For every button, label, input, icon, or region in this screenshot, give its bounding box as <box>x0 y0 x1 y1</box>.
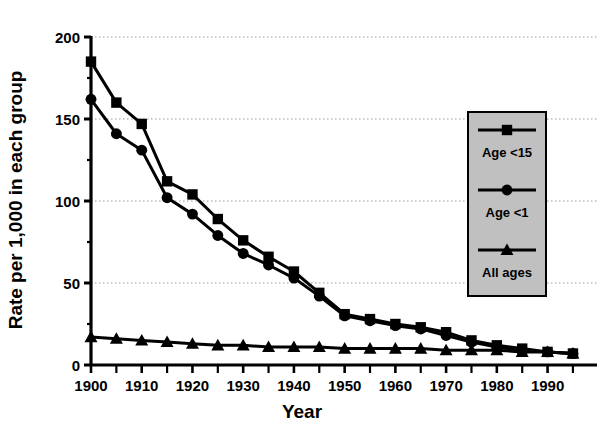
x-tick-label-1980: 1980 <box>480 377 513 394</box>
series-point-circle-1970 <box>441 330 452 341</box>
series-point-square-1910 <box>137 119 147 129</box>
series-point-circle-1945 <box>314 291 325 302</box>
y-tick-label-0: 0 <box>72 357 80 374</box>
y-axis-title: Rate per 1,000 in each group <box>5 71 26 330</box>
legend-label-age-1: Age <1 <box>486 205 529 220</box>
series-point-circle-1905 <box>111 128 122 139</box>
chart-container: 0501001502001900191019201930194019501960… <box>0 0 603 431</box>
series-point-square-1900 <box>86 56 96 66</box>
series-point-circle-1955 <box>365 315 376 326</box>
y-tick-label-200: 200 <box>55 29 80 46</box>
y-tick-label-50: 50 <box>63 275 80 292</box>
series-point-circle-1960 <box>390 320 401 331</box>
series-point-square-1930 <box>238 235 248 245</box>
legend-label-age-15: Age <15 <box>482 145 532 160</box>
x-tick-label-1900: 1900 <box>74 377 107 394</box>
x-tick-label-1920: 1920 <box>176 377 209 394</box>
x-tick-label-1970: 1970 <box>429 377 462 394</box>
series-point-square-1925 <box>213 214 223 224</box>
x-tick-label-1950: 1950 <box>328 377 361 394</box>
series-point-circle-1935 <box>263 260 274 271</box>
series-point-circle-1920 <box>187 209 198 220</box>
series-point-circle-1910 <box>136 145 147 156</box>
series-point-square-1920 <box>187 189 197 199</box>
series-point-square-1905 <box>111 97 121 107</box>
series-point-square-1915 <box>162 176 172 186</box>
x-axis-title: Year <box>282 401 323 422</box>
series-point-circle-1915 <box>162 192 173 203</box>
series-point-circle-1940 <box>288 273 299 284</box>
legend-marker-square <box>502 125 512 135</box>
series-point-circle-1900 <box>86 94 97 105</box>
y-tick-label-150: 150 <box>55 111 80 128</box>
legend-marker-circle <box>502 185 513 196</box>
series-point-circle-1965 <box>415 323 426 334</box>
x-tick-label-1910: 1910 <box>125 377 158 394</box>
x-tick-label-1940: 1940 <box>277 377 310 394</box>
x-tick-label-1960: 1960 <box>379 377 412 394</box>
series-point-circle-1950 <box>339 310 350 321</box>
series-point-circle-1925 <box>212 230 223 241</box>
x-tick-label-1990: 1990 <box>531 377 564 394</box>
y-tick-label-100: 100 <box>55 193 80 210</box>
x-tick-label-1930: 1930 <box>227 377 260 394</box>
series-point-circle-1930 <box>238 248 249 259</box>
legend-label-all-ages: All ages <box>482 265 532 280</box>
line-chart: 0501001502001900191019201930194019501960… <box>0 0 603 431</box>
